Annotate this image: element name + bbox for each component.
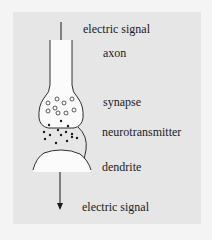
axon-shape [39, 40, 83, 128]
label-dendrite: dendrite [102, 160, 141, 175]
label-top-electric-signal: electric signal [83, 22, 150, 37]
label-bottom-electric-signal: electric signal [82, 200, 149, 215]
label-axon: axon [103, 46, 126, 61]
dendrite-shape [33, 150, 91, 172]
bottom-arrow-icon [57, 172, 63, 210]
label-synapse: synapse [103, 95, 141, 110]
label-neurotransmitter: neurotransmitter [102, 125, 181, 140]
